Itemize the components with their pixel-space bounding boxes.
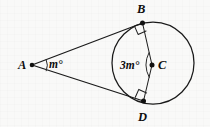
angle-label-c: 3m° bbox=[119, 59, 140, 71]
radius-line-cb bbox=[143, 23, 153, 65]
point-label-c: C bbox=[158, 58, 167, 72]
radius-line-cd bbox=[144, 65, 153, 101]
point-label-b: B bbox=[136, 2, 145, 16]
vertex-dot-c bbox=[150, 63, 155, 68]
vertex-dot-a bbox=[30, 63, 35, 68]
point-label-d: D bbox=[137, 110, 147, 124]
angle-arc-a-icon bbox=[46, 60, 47, 71]
angle-arc-c-icon bbox=[146, 53, 149, 78]
geometry-canvas: A B C D m° 3m° bbox=[0, 0, 210, 127]
vertex-dot-b bbox=[140, 21, 145, 26]
vertex-dot-d bbox=[141, 99, 146, 104]
angle-label-a: m° bbox=[49, 58, 63, 70]
point-label-a: A bbox=[17, 58, 26, 72]
geometry-figure: A B C D m° 3m° bbox=[0, 0, 210, 127]
